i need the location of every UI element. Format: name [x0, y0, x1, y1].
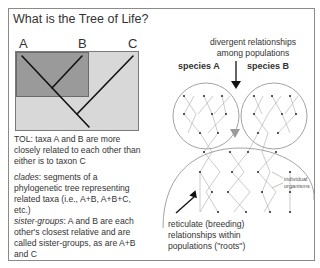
divergent-caption: divergent relationships among population…	[193, 37, 313, 59]
clades-definition: clades: segments of a phylogenetic tree …	[14, 172, 146, 216]
clades-term: clades	[14, 172, 39, 182]
tol-definition: TOL: taxa A and B are more closely relat…	[14, 134, 146, 167]
page-title: What is the Tree of Life?	[13, 12, 149, 26]
clade-ab-box	[16, 52, 89, 97]
taxon-label-c: C	[128, 36, 137, 51]
sister-groups-definition: sister-groups: A and B are each other's …	[14, 216, 146, 260]
individual-organisms-label: individual organisms	[284, 176, 310, 190]
sister-groups-term: sister-groups	[14, 216, 64, 226]
species-a-label: species A	[178, 61, 220, 72]
taxon-label-a: A	[19, 36, 28, 51]
taxon-label-b: B	[78, 36, 87, 51]
species-b-label: species B	[247, 61, 289, 72]
reticulate-caption: reticulate (breeding) relationships with…	[168, 219, 245, 252]
